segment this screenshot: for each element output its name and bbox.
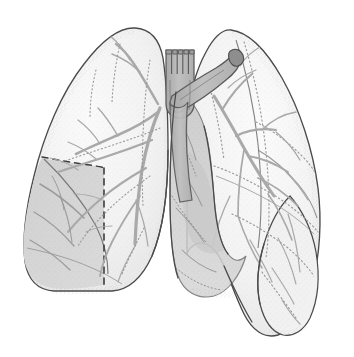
lung-anatomy-svg — [0, 0, 354, 357]
bronchus-lumen — [229, 49, 244, 66]
lung-illustration-figure: Human Lungs - Anterior View — [0, 0, 354, 357]
